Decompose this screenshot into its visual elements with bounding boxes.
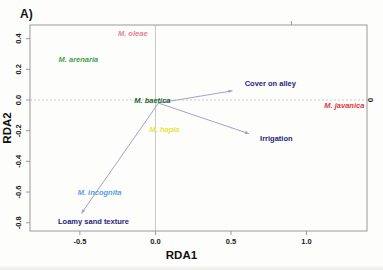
x-tick-label: 0.0 — [150, 237, 160, 246]
x-tick-label: 0.5 — [226, 237, 236, 246]
env-arrowhead-irrigation — [245, 131, 250, 134]
y-tick-label: 0.0 — [14, 95, 23, 105]
x-tick-label: -0.5 — [73, 237, 86, 246]
species-label-m-baetica: M. baetica — [134, 96, 170, 105]
species-label-m-oleae: M. oleae — [118, 29, 148, 38]
y-tick-label: -0.2 — [14, 124, 23, 137]
species-label-m-javanica: M. javanica — [324, 101, 364, 110]
env-label-irrigation: Irrigation — [260, 134, 293, 143]
species-label-m-incognita: M. incognita — [78, 188, 122, 197]
env-label-cover-on-alley: Cover on alley — [245, 79, 297, 88]
right-axis-zero-label: 0 — [366, 97, 375, 102]
y-tick-label: 0.4 — [14, 33, 23, 44]
y-tick-label: -0.8 — [14, 216, 23, 229]
y-axis-title: RDA2 — [1, 112, 13, 143]
env-arrowhead-cover-on-alley — [228, 90, 232, 93]
x-tick-label: 1.0 — [301, 237, 311, 246]
page-edge-shading — [0, 265, 383, 270]
env-label-loamy-sand-texture: Loamy sand texture — [58, 217, 129, 226]
x-axis-title: RDA1 — [166, 249, 198, 261]
y-tick-label: -0.6 — [14, 186, 23, 199]
y-tick-label: -0.4 — [14, 154, 23, 168]
species-label-m-hapla: M. hapla — [149, 125, 179, 134]
species-label-m-arenaria: M. arenaria — [59, 55, 99, 64]
rda-biplot: -0.50.00.51.00.40.20.0-0.2-0.4-0.6-0.80C… — [0, 0, 383, 270]
y-tick-label: 0.2 — [14, 64, 23, 74]
